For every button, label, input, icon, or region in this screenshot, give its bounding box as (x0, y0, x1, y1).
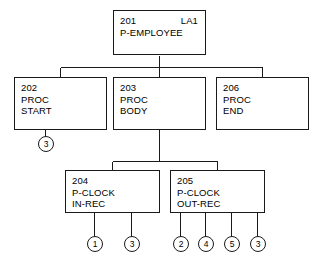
connector-circle-205-4[interactable]: 4 (198, 236, 214, 252)
node-201-line2: P-EMPLOYEE (120, 27, 205, 39)
node-202[interactable]: 202 PROC START (14, 77, 107, 130)
node-204-line3: IN-REC (72, 198, 159, 210)
node-203-line3: BODY (120, 105, 205, 117)
node-206-id: 206 (223, 82, 308, 94)
connector-circle-204-3[interactable]: 3 (124, 236, 140, 252)
connector-circle-205-2[interactable]: 2 (173, 236, 189, 252)
node-205-line2: P-CLOCK (177, 187, 264, 199)
node-201-id: 201 (120, 15, 136, 27)
node-204-id: 204 (72, 175, 159, 187)
connector-circle-205-5[interactable]: 5 (224, 236, 240, 252)
node-201-label: LA1 (181, 15, 198, 27)
connector-circle-204-3-label: 3 (130, 240, 135, 249)
connector-circle-202-3[interactable]: 3 (38, 136, 54, 152)
node-205[interactable]: 205 P-CLOCK OUT-REC (170, 170, 265, 213)
node-202-id: 202 (21, 82, 106, 94)
structure-chart: 201 LA1 P-EMPLOYEE 202 PROC START 203 PR… (0, 0, 322, 267)
node-203-id: 203 (120, 82, 205, 94)
node-203-line2: PROC (120, 94, 205, 106)
node-204-line2: P-CLOCK (72, 187, 159, 199)
node-206[interactable]: 206 PROC END (216, 77, 309, 130)
node-201[interactable]: 201 LA1 P-EMPLOYEE (113, 10, 206, 55)
node-202-line3: START (21, 105, 106, 117)
connector-circle-205-3-label: 3 (256, 240, 261, 249)
node-201-header: 201 LA1 (120, 15, 205, 27)
node-204[interactable]: 204 P-CLOCK IN-REC (65, 170, 160, 213)
node-206-line3: END (223, 105, 308, 117)
connector-circle-204-1[interactable]: 1 (87, 236, 103, 252)
connector-circle-205-3[interactable]: 3 (250, 236, 266, 252)
connector-circle-205-4-label: 4 (204, 240, 209, 249)
connector-circle-204-1-label: 1 (93, 240, 98, 249)
node-202-line2: PROC (21, 94, 106, 106)
connector-circle-205-5-label: 5 (230, 240, 235, 249)
node-205-id: 205 (177, 175, 264, 187)
node-206-line2: PROC (223, 94, 308, 106)
node-203[interactable]: 203 PROC BODY (113, 77, 206, 130)
node-205-line3: OUT-REC (177, 198, 264, 210)
connector-circle-202-3-label: 3 (44, 140, 49, 149)
connector-circle-205-2-label: 2 (179, 240, 184, 249)
